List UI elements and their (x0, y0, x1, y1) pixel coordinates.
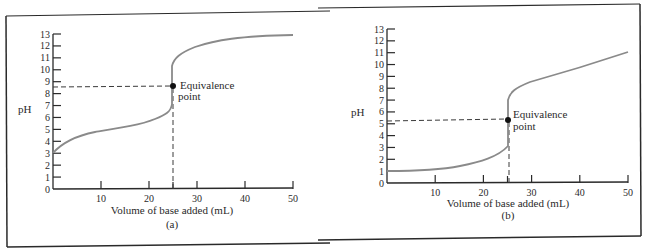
chart-panel-b: 012345678910111213 1020304050 Equivalenc… (351, 24, 633, 223)
y-tick-label: 3 (45, 148, 50, 159)
annotation-line2: point (178, 90, 201, 102)
equivalence-point-marker (505, 117, 511, 123)
y-tick-label: 2 (379, 154, 384, 165)
y-axis-ticks: 012345678910111213 (374, 24, 395, 189)
x-tick-label: 40 (240, 193, 250, 204)
x-tick-label: 40 (575, 187, 585, 198)
titration-curve (53, 35, 293, 153)
y-tick-label: 12 (40, 40, 50, 51)
y-tick-label: 7 (45, 100, 50, 111)
y-tick-label: 6 (379, 106, 384, 117)
x-tick-label: 50 (288, 193, 298, 204)
y-tick-label: 10 (40, 64, 50, 75)
panel-caption: (a) (166, 218, 179, 231)
y-tick-label: 5 (379, 118, 384, 129)
y-axis-label: pH (18, 103, 32, 115)
y-axis-ticks: 012345678910111213 (40, 29, 61, 195)
y-tick-label: 2 (45, 160, 50, 171)
y-tick-label: 11 (40, 52, 50, 63)
y-tick-label: 0 (45, 184, 50, 195)
x-tick-label: 20 (144, 193, 154, 204)
x-tick-label: 10 (430, 187, 440, 198)
y-tick-label: 9 (379, 71, 384, 82)
figure: 012345678910111213 1020304050 Equivalenc… (0, 0, 647, 251)
titration-curve (387, 52, 628, 171)
chart-panel-a: 012345678910111213 1020304050 Equivalenc… (18, 29, 298, 232)
y-tick-label: 13 (40, 29, 50, 40)
x-axis-label: Volume of base added (mL) (111, 204, 234, 217)
y-tick-label: 12 (374, 35, 384, 46)
equivalence-ph-guide (387, 119, 507, 121)
panel-caption: (b) (502, 209, 515, 222)
x-axis-ticks: 1020304050 (96, 181, 298, 204)
y-tick-label: 9 (45, 76, 50, 87)
x-axis-ticks: 1020304050 (430, 175, 633, 198)
equivalence-ph-guide (53, 86, 172, 87)
y-tick-label: 1 (379, 166, 384, 177)
y-tick-label: 8 (45, 88, 50, 99)
x-tick-label: 30 (192, 193, 202, 204)
y-tick-label: 13 (374, 24, 384, 35)
y-tick-label: 6 (45, 112, 50, 123)
y-tick-label: 4 (45, 136, 50, 147)
y-tick-label: 10 (374, 59, 384, 70)
annotation-line1: Equivalence (513, 108, 567, 120)
y-tick-label: 0 (379, 178, 384, 189)
annotation-line2: point (513, 120, 536, 132)
y-tick-label: 7 (379, 95, 384, 106)
y-tick-label: 11 (374, 47, 384, 58)
x-tick-label: 50 (623, 187, 633, 198)
y-axis-label: pH (351, 106, 365, 118)
y-tick-label: 4 (379, 130, 384, 141)
equivalence-point-marker (170, 83, 176, 89)
y-tick-label: 8 (379, 83, 384, 94)
y-tick-label: 3 (379, 142, 384, 153)
y-tick-label: 1 (45, 172, 50, 183)
y-tick-label: 5 (45, 124, 50, 135)
x-tick-label: 10 (96, 193, 106, 204)
